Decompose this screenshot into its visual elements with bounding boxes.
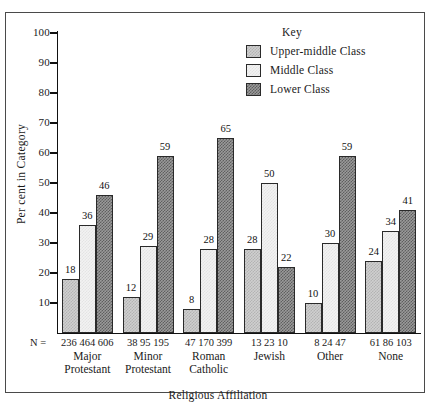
bar-value-label: 22 <box>281 253 292 264</box>
bar-value-label: 10 <box>308 289 319 300</box>
y-axis-tick <box>50 212 57 213</box>
bar-lower: 41 <box>399 210 416 333</box>
bar-upper-middle: 10 <box>305 303 322 333</box>
sample-size-row: N = 236 464 60638 95 19547 170 39913 23 … <box>0 336 436 350</box>
bar-value-label: 50 <box>264 169 275 180</box>
y-axis-tick <box>50 272 57 273</box>
y-axis-tick <box>50 302 57 303</box>
bar-lower: 59 <box>157 156 174 333</box>
bar-middle: 50 <box>261 183 278 333</box>
sample-size-group: 47 170 399 <box>178 336 239 349</box>
bar-value-label: 34 <box>385 217 396 228</box>
bar-upper-middle: 28 <box>244 249 261 333</box>
bar-value-label: 59 <box>342 142 353 153</box>
bar-middle: 28 <box>200 249 217 333</box>
category-label-line: None <box>354 350 427 363</box>
x-axis-title: Religious Affiliation <box>0 389 436 401</box>
y-axis-tick <box>50 152 57 153</box>
legend-swatch-upper-middle <box>246 45 261 58</box>
bar-chart: 100908070605040302010 Per cent in Catego… <box>0 0 436 409</box>
sample-size-group: 38 95 195 <box>118 336 179 349</box>
y-axis-tick <box>50 122 57 123</box>
y-axis-tick <box>50 92 57 93</box>
legend-item-middle: Middle Class <box>246 64 416 77</box>
bar-middle: 34 <box>382 231 399 333</box>
legend-swatch-middle <box>246 64 261 77</box>
category-label-line: Catholic <box>172 363 245 376</box>
bar-upper-middle: 24 <box>365 261 382 333</box>
bar-value-label: 8 <box>189 295 194 306</box>
legend-entries: Upper-middle ClassMiddle ClassLower Clas… <box>246 45 416 96</box>
bar-value-label: 59 <box>160 142 171 153</box>
bar-value-label: 24 <box>368 247 379 258</box>
legend-label: Lower Class <box>270 83 330 96</box>
bar-upper-middle: 12 <box>123 297 140 333</box>
bar-lower: 65 <box>217 138 234 333</box>
bar-value-label: 28 <box>203 235 214 246</box>
bar-middle: 29 <box>140 246 157 333</box>
bar-value-label: 65 <box>220 124 231 135</box>
sample-size-group: 61 86 103 <box>360 336 421 349</box>
legend-label: Middle Class <box>270 64 333 77</box>
legend-swatch-lower <box>246 83 261 96</box>
bar-upper-middle: 8 <box>183 309 200 333</box>
y-axis-tick <box>50 62 57 63</box>
sample-size-group: 8 24 47 <box>300 336 361 349</box>
legend: Key Upper-middle ClassMiddle ClassLower … <box>246 26 416 102</box>
legend-label: Upper-middle Class <box>270 45 366 58</box>
bar-middle: 30 <box>322 243 339 333</box>
bar-value-label: 41 <box>402 196 413 207</box>
bar-value-label: 29 <box>143 232 154 243</box>
legend-title: Key <box>282 26 416 38</box>
y-axis-tick <box>50 32 57 33</box>
x-axis-category-labels: MajorProtestantMinorProtestantRomanCatho… <box>0 350 436 394</box>
bar-value-label: 28 <box>247 235 258 246</box>
bar-value-label: 36 <box>82 211 93 222</box>
legend-item-lower: Lower Class <box>246 83 416 96</box>
bar-lower: 46 <box>96 195 113 333</box>
bar-lower: 59 <box>339 156 356 333</box>
sample-size-label: N = <box>30 336 46 349</box>
bar-upper-middle: 18 <box>62 279 79 333</box>
sample-size-group: 236 464 606 <box>57 336 118 349</box>
legend-item-upper-middle: Upper-middle Class <box>246 45 416 58</box>
bar-value-label: 30 <box>325 229 336 240</box>
bar-middle: 36 <box>79 225 96 333</box>
bar-value-label: 12 <box>126 283 137 294</box>
sample-size-group: 13 23 10 <box>239 336 300 349</box>
bar-lower: 22 <box>278 267 295 333</box>
bar-value-label: 46 <box>99 181 110 192</box>
y-axis-tick <box>50 242 57 243</box>
y-axis-tick <box>50 182 57 183</box>
bar-value-label: 18 <box>65 265 76 276</box>
x-axis-category-label: None <box>354 350 427 363</box>
